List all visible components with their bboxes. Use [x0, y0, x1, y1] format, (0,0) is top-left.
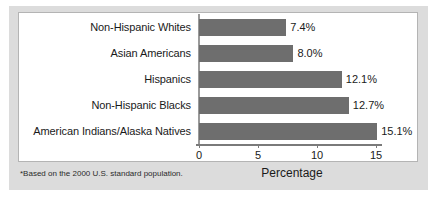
bar-row: 12.7% — [199, 92, 418, 118]
tick-label: 10 — [311, 149, 323, 161]
bar-value-label: 8.0% — [297, 47, 322, 59]
category-label: Asian Americans — [111, 47, 191, 59]
tick-label: 5 — [255, 149, 261, 161]
bar-row: 12.1% — [199, 66, 418, 92]
footnote: *Based on the 2000 U.S. standard populat… — [20, 169, 183, 178]
tick-mark — [317, 144, 318, 148]
category-axis: Non-Hispanic Whites Asian Americans Hisp… — [18, 14, 196, 144]
tick-label: 15 — [370, 149, 382, 161]
category-label: Non-Hispanic Whites — [90, 21, 191, 33]
category-row: Non-Hispanic Whites — [18, 14, 196, 40]
bar-series: 7.4% 8.0% 12.1% 12.7% 15.1% — [199, 14, 418, 144]
category-row: American Indians/Alaska Natives — [18, 118, 196, 144]
category-label: Non-Hispanic Blacks — [91, 99, 191, 111]
bar — [199, 123, 377, 140]
bar-row: 7.4% — [199, 14, 418, 40]
category-label: Hispanics — [144, 73, 191, 85]
bar-row: 15.1% — [199, 118, 418, 144]
bar — [199, 97, 349, 114]
bar — [199, 45, 293, 62]
category-row: Asian Americans — [18, 40, 196, 66]
x-axis-title: Percentage — [199, 166, 385, 180]
tick-mark — [258, 144, 259, 148]
bar-value-label: 15.1% — [381, 125, 412, 137]
value-axis-line — [196, 144, 382, 146]
category-row: Non-Hispanic Blacks — [18, 92, 196, 118]
category-row: Hispanics — [18, 66, 196, 92]
bar — [199, 19, 286, 36]
bar-value-label: 12.1% — [346, 73, 377, 85]
category-label: American Indians/Alaska Natives — [33, 125, 191, 137]
tick-mark — [376, 144, 377, 148]
bar-value-label: 7.4% — [290, 21, 315, 33]
tick-label: 0 — [196, 149, 202, 161]
bar — [199, 71, 342, 88]
figure: Non-Hispanic Whites Asian Americans Hisp… — [0, 0, 445, 197]
bar-value-label: 12.7% — [353, 99, 384, 111]
bar-row: 8.0% — [199, 40, 418, 66]
tick-mark — [199, 144, 200, 148]
